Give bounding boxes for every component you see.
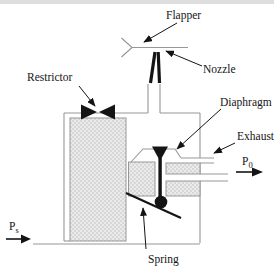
output-channel [200, 174, 228, 181]
nozzle-assembly [148, 52, 160, 113]
spring-arrow [143, 208, 146, 249]
nozzle-label: Nozzle [203, 63, 236, 75]
ps-label: Ps [9, 220, 19, 235]
nozzle-right-wedge [158, 52, 159, 83]
p0-arrow-head [252, 168, 263, 177]
p0-label-subscript: 0 [248, 160, 252, 170]
restrictor-arrow [79, 86, 95, 106]
diaphragm-arrow [177, 109, 221, 149]
valve-body [129, 162, 201, 196]
exhaust-arrow [214, 143, 235, 153]
restrictor-column [70, 118, 126, 241]
p0-label: P0 [242, 155, 253, 170]
flapper-pivot [122, 38, 133, 57]
valve-block-left [129, 162, 156, 196]
flapper-nozzle-diagram: Flapper Nozzle Restrictor Diaphragm Exha… [0, 0, 274, 276]
diaphragm-label: Diaphragm [220, 96, 272, 109]
spring-label: Spring [148, 253, 179, 266]
valve-block-right-lower [166, 181, 200, 196]
flapper-label: Flapper [166, 9, 201, 22]
nozzle-arrow [166, 51, 202, 66]
ps-label-subscript: s [15, 225, 18, 235]
flapper-arrow [144, 23, 177, 42]
valve-ball [155, 196, 168, 209]
nozzle-tube-walls [148, 84, 160, 113]
valve-stem [158, 158, 161, 197]
valve-block-right-upper [166, 163, 200, 174]
exhaust-label: Exhaust [237, 130, 274, 142]
restrictor-left-triangle [81, 105, 97, 120]
scan-artifact-band [0, 0, 274, 4]
restrictor-valve-icon [81, 105, 115, 120]
nozzle-left-wedge [151, 52, 156, 83]
ps-arrow-head [21, 235, 31, 244]
diagram-canvas: Flapper Nozzle Restrictor Diaphragm Exha… [0, 0, 274, 276]
exhaust-channel [181, 158, 214, 163]
spring-leaf [126, 193, 181, 218]
supply-flow-arrow [6, 235, 31, 244]
restrictor-right-triangle [99, 105, 115, 120]
restrictor-label: Restrictor [27, 71, 73, 83]
